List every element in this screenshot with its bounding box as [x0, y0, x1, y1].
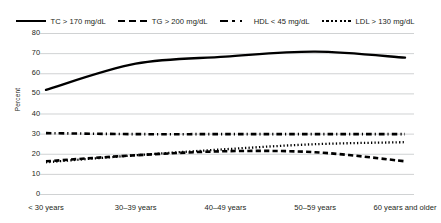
series-lines: [46, 52, 405, 163]
series-line-tg: [46, 151, 405, 161]
series-line-tc: [46, 52, 405, 90]
